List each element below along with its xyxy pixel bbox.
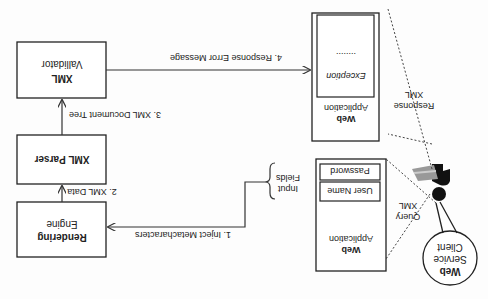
diagram-canvas: Web Service Client Query XML Response XM… xyxy=(0,0,488,299)
webapp-resp-label-2: Application xyxy=(324,103,368,113)
edge-step2: 2. XML Data xyxy=(62,186,117,202)
rendering-label-2: Engine xyxy=(46,219,78,230)
fields-label: Fields xyxy=(276,173,301,183)
edge-step4: 4. Response Error Message xyxy=(106,53,310,70)
exception-dots: ........ xyxy=(336,51,356,61)
client-label-3: Client xyxy=(437,242,463,253)
rendering-engine: Rendering Engine xyxy=(17,202,106,257)
query-label: Query xyxy=(395,212,420,222)
step3-label: 3. XML Document Tree xyxy=(69,110,161,120)
validator-label-1: XML xyxy=(51,73,72,84)
input-fields-brace: Input Fields xyxy=(265,163,300,199)
xml-validator: XML Vallidator xyxy=(17,42,106,98)
webapp-query-label-1: Web xyxy=(341,245,360,255)
web-service-client: Web Service Client xyxy=(423,202,477,285)
validator-label-2: Vallidator xyxy=(41,59,83,70)
input-label: Input xyxy=(277,184,298,194)
bubble-tail xyxy=(436,202,457,233)
diagram-svg: Web Service Client Query XML Response XM… xyxy=(0,0,488,299)
web-application-response: Web Application Exception ........ xyxy=(312,13,379,141)
webapp-query-label-2: Application xyxy=(329,234,373,244)
client-label-2: Service xyxy=(433,254,467,265)
response-label: Response xyxy=(394,101,435,111)
step4-label: 4. Response Error Message xyxy=(170,53,282,63)
step1-label: 1. Inject Metacharacters xyxy=(134,230,231,240)
parser-label: XML Parser xyxy=(34,154,89,165)
step2-label: 2. XML Data xyxy=(67,187,117,197)
response-xml-label: XML xyxy=(405,90,424,100)
edge-step1: 1. Inject Metacharacters xyxy=(108,182,265,240)
user-computer-icon xyxy=(412,164,450,201)
webapp-resp-label-1: Web xyxy=(336,114,355,124)
rendering-label-1: Rendering xyxy=(37,232,86,243)
username-label: User Name xyxy=(327,186,373,196)
exception-label: Exception xyxy=(326,71,366,81)
xml-parser: XML Parser xyxy=(17,135,106,184)
password-label: Password xyxy=(330,166,370,176)
client-label-1: Web xyxy=(440,266,461,277)
web-application-query: Web Application User Name Password xyxy=(316,159,386,271)
rotated-diagram: Web Service Client Query XML Response XM… xyxy=(0,0,488,299)
query-xml-label: XML xyxy=(399,201,418,211)
edge-step3: 3. XML Document Tree xyxy=(62,100,161,135)
